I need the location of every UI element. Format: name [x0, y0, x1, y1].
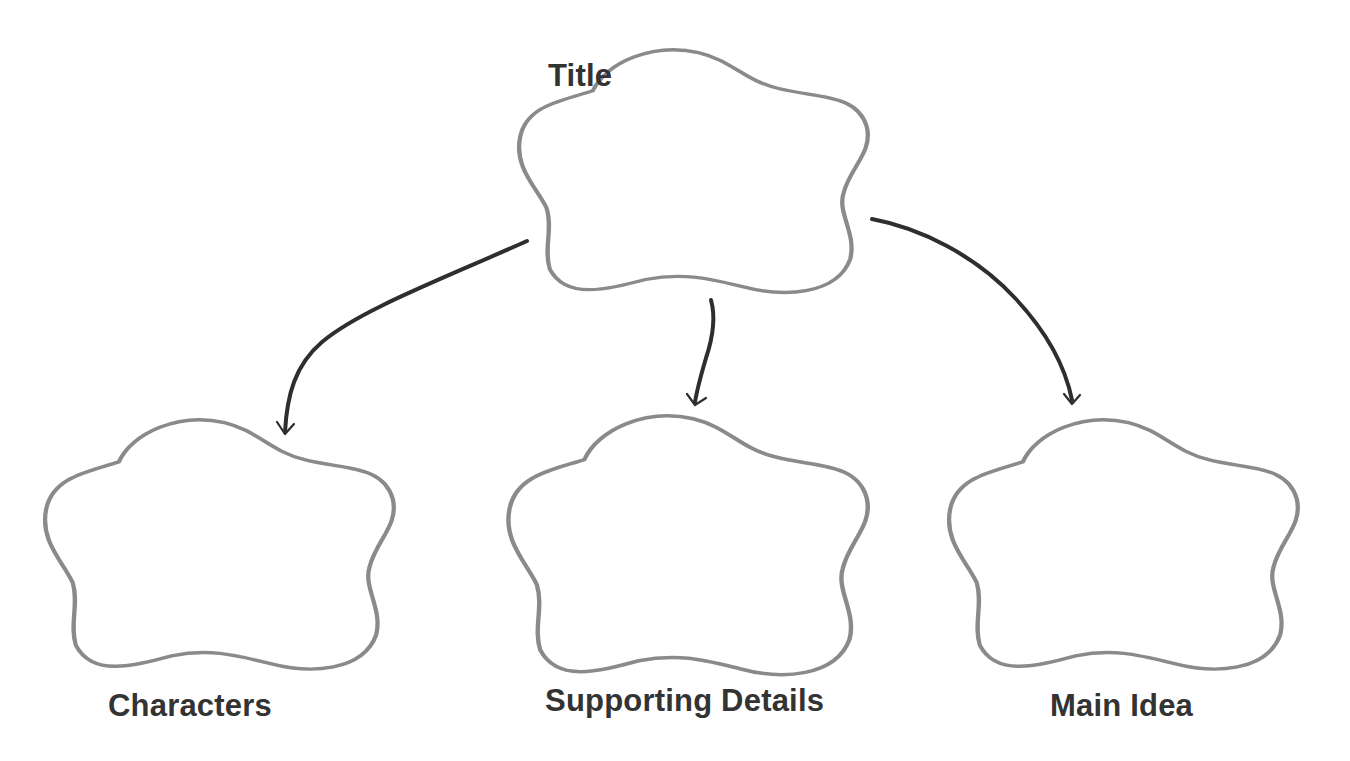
- arrow-to-characters: [277, 241, 527, 434]
- main-idea-cloud[interactable]: [970, 420, 1300, 682]
- supporting-details-cloud[interactable]: [530, 416, 870, 688]
- arrow-to-supporting-details: [687, 300, 713, 405]
- characters-label: Characters: [108, 690, 272, 721]
- main-idea-label: Main Idea: [1050, 690, 1193, 721]
- title-label: Title: [548, 60, 612, 91]
- supporting-details-label: Supporting Details: [545, 685, 824, 716]
- characters-cloud[interactable]: [66, 420, 396, 682]
- graphic-organizer-canvas: Title Characters Supporting Details Main…: [0, 0, 1350, 761]
- arrow-to-main-idea: [872, 219, 1080, 404]
